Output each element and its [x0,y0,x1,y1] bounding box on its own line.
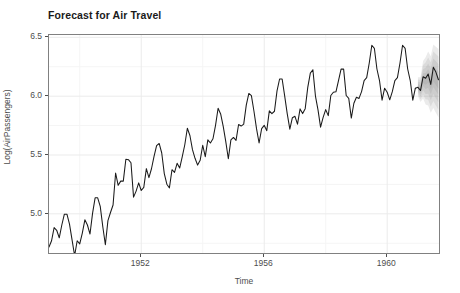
page-title: Forecast for Air Travel [48,9,161,21]
observed-series-line [49,45,415,254]
y-axis-tick-labels: 5.05.56.06.5 [14,0,42,293]
y-axis-title-label: Log(AirPassengers) [2,89,12,164]
forecast-chart-figure: Forecast for Air Travel Log(AirPassenger… [0,0,460,293]
x-axis-tick-mark [140,254,141,257]
y-axis-title: Log(AirPassengers) [0,0,14,253]
plot-panel [48,34,440,254]
y-axis-tick-label: 6.0 [16,90,42,100]
y-axis-tick-label: 5.0 [16,208,42,218]
x-axis-tick-mark [386,254,387,257]
y-axis-tick-mark [45,213,48,214]
y-axis-tick-mark [45,95,48,96]
x-axis-tick-label: 1960 [377,258,396,268]
x-axis-tick-label: 1952 [131,258,150,268]
y-axis-tick-label: 5.5 [16,149,42,159]
x-axis-tick-mark [263,254,264,257]
x-axis-title: Time [48,276,440,286]
y-axis-tick-label: 6.5 [16,31,42,41]
plot-svg [49,35,440,254]
y-axis-tick-mark [45,36,48,37]
prediction-interval-ribbon [418,44,439,117]
x-axis-tick-label: 1956 [254,258,273,268]
y-axis-tick-mark [45,154,48,155]
